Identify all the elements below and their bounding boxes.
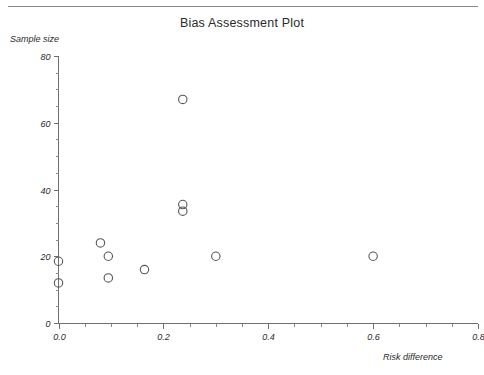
x-axis-group: 0.00.20.40.60.8 (53, 324, 484, 343)
x-tick-label: 0.4 (262, 332, 275, 342)
scatter-plot-canvas: 020406080 0.00.20.40.60.8 (0, 0, 484, 375)
data-point (140, 265, 148, 273)
data-point (96, 239, 104, 247)
y-tick-label: 80 (40, 52, 50, 62)
data-point (212, 252, 220, 260)
y-tick-label: 20 (39, 252, 50, 262)
y-axis-group: 020406080 (39, 52, 58, 329)
x-tick-label: 0.8 (472, 332, 484, 342)
data-point-markers (54, 95, 377, 287)
data-point (104, 274, 112, 282)
data-point (369, 252, 377, 260)
data-point (104, 252, 112, 260)
y-tick-label: 40 (40, 186, 50, 196)
y-tick-label: 0 (45, 319, 50, 329)
x-tick-label: 0.2 (157, 332, 170, 342)
x-tick-label: 0.6 (367, 332, 380, 342)
data-point (179, 95, 187, 103)
x-tick-label: 0.0 (53, 332, 66, 342)
y-axis-ticks: 020406080 (39, 52, 58, 329)
x-axis-ticks: 0.00.20.40.60.8 (53, 324, 484, 343)
bias-assessment-plot-page: Bias Assessment Plot Sample size Risk di… (0, 0, 484, 375)
y-tick-label: 60 (40, 119, 50, 129)
